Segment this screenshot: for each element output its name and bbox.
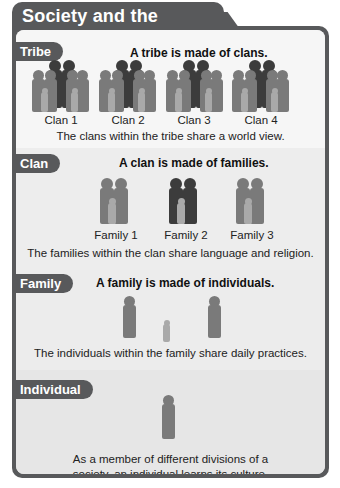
family-label: Family 2 — [156, 229, 216, 241]
person-icon — [163, 320, 170, 342]
person-icon — [205, 88, 212, 112]
individual-caption-line-1: As a member of different divisions of a — [16, 453, 325, 465]
family-label: Family 3 — [222, 229, 282, 241]
clan-label: Clan 1 — [26, 114, 96, 126]
section-clan: Clan A clan is made of families. Family … — [16, 148, 325, 270]
person-icon — [138, 88, 145, 112]
section-family: Family A family is made of individuals. … — [16, 270, 325, 370]
tribe-heading: A tribe is made of clans. — [130, 46, 268, 60]
clan-label: Clan 2 — [93, 114, 163, 126]
section-label-tribe: Tribe — [16, 42, 63, 61]
tribe-caption: The clans within the tribe share a world… — [16, 130, 325, 142]
person-icon — [71, 88, 78, 112]
clan-label: Clan 4 — [226, 114, 296, 126]
clan-heading: A clan is made of families. — [119, 156, 269, 170]
section-label-clan: Clan — [16, 154, 60, 173]
section-tribe: Tribe A tribe is made of clans. Clan 1 C… — [16, 30, 325, 148]
family-label: Family 1 — [86, 229, 146, 241]
clan-label: Clan 3 — [159, 114, 229, 126]
person-icon — [41, 88, 48, 112]
person-icon — [250, 178, 264, 224]
diagram-frame: Tribe A tribe is made of clans. Clan 1 C… — [12, 26, 329, 478]
clan-caption: The families within the clan share langu… — [16, 247, 325, 259]
person-icon — [271, 88, 278, 112]
person-icon — [114, 178, 128, 224]
person-icon — [177, 198, 185, 224]
person-icon — [162, 395, 175, 439]
section-label-individual: Individual — [16, 380, 93, 399]
section-individual: Individual As a member of different divi… — [16, 370, 325, 474]
person-icon — [175, 88, 182, 112]
diagram-panel: Tribe A tribe is made of clans. Clan 1 C… — [16, 30, 325, 474]
family-heading: A family is made of individuals. — [96, 276, 274, 290]
person-icon — [241, 88, 248, 112]
section-label-family: Family — [16, 274, 73, 293]
person-icon — [183, 178, 197, 224]
individual-caption-line-2: society, an individual learns its cultur… — [16, 468, 325, 474]
person-icon — [123, 296, 136, 338]
person-icon — [208, 296, 221, 338]
person-icon — [108, 88, 115, 112]
family-caption: The individuals within the family share … — [16, 347, 325, 359]
person-icon — [108, 198, 116, 224]
person-icon — [244, 198, 252, 224]
